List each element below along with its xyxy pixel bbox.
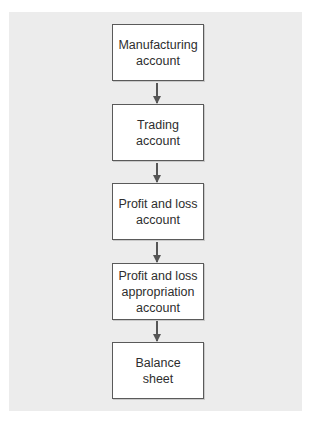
node-balance-sheet: Balance sheet	[112, 342, 204, 399]
arrow-down-icon	[156, 163, 158, 182]
node-label: Profit and loss appropriation account	[115, 268, 201, 316]
node-trading-account: Trading account	[112, 104, 204, 161]
node-label: Manufacturing account	[115, 37, 201, 69]
node-appropriation-account: Profit and loss appropriation account	[112, 263, 204, 320]
node-label: Profit and loss account	[115, 196, 201, 228]
arrow-down-icon	[156, 83, 158, 103]
arrow-down-icon	[156, 321, 158, 341]
node-label: Trading account	[128, 117, 188, 149]
node-profit-and-loss-account: Profit and loss account	[112, 183, 204, 240]
arrow-down-icon	[156, 242, 158, 262]
node-manufacturing-account: Manufacturing account	[112, 24, 204, 81]
node-label: Balance sheet	[128, 355, 188, 387]
